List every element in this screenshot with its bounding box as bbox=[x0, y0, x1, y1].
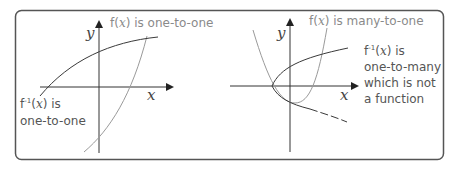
right-inverse-label-line2: one-to-many bbox=[364, 60, 441, 74]
left-f-curve bbox=[84, 36, 147, 152]
right-inverse-label-line1: f-1(x) is bbox=[364, 44, 405, 58]
left-inverse-label-line2: one-to-one bbox=[20, 114, 86, 128]
right-inverse-upper bbox=[272, 48, 348, 86]
right-inverse-label-line3: which is not bbox=[364, 76, 436, 90]
right-inverse-label-line4: a function bbox=[364, 92, 424, 106]
right-f-label: f(x) is many-to-one bbox=[309, 14, 424, 28]
right-x-label: x bbox=[340, 86, 349, 104]
right-inverse-lower bbox=[272, 86, 310, 109]
left-graph: y x f(x) is one-to-one f-1(x) is one-to-… bbox=[20, 16, 213, 153]
left-x-label: x bbox=[147, 86, 156, 104]
right-inverse-lower-dashed bbox=[310, 109, 347, 122]
diagram-canvas: y x f(x) is one-to-one f-1(x) is one-to-… bbox=[0, 0, 459, 170]
left-inverse-label-line1: f-1(x) is bbox=[20, 97, 61, 111]
left-f-label: f(x) is one-to-one bbox=[110, 16, 213, 30]
left-y-label: y bbox=[85, 24, 95, 42]
right-graph: y x f(x) is many-to-one f-1(x) is one-to… bbox=[230, 14, 441, 152]
right-y-label: y bbox=[276, 24, 286, 42]
